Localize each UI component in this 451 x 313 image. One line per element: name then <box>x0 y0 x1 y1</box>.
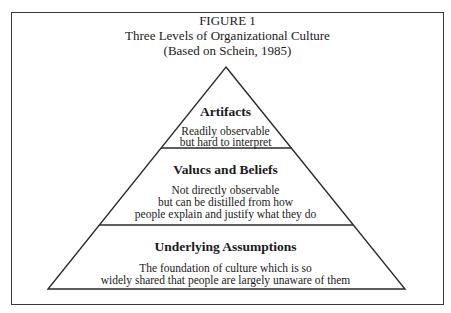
level-desc-artifacts-line2: but hard to interpret <box>0 136 451 148</box>
level-desc-values-line3: people explain and justify what they do <box>0 208 451 220</box>
level-desc-values-line1: Not directly observable <box>0 184 451 196</box>
level-desc-assumptions-line1: The foundation of culture which is so <box>0 262 451 274</box>
level-title-values-beliefs: Valucs and Beliefs <box>0 162 451 177</box>
level-title-artifacts: Artifacts <box>0 104 451 119</box>
level-desc-values-line2: but can be distilled from how <box>0 196 451 208</box>
level-title-underlying-assumptions: Underlying Assumptions <box>0 239 451 254</box>
pyramid-outline <box>48 67 405 289</box>
level-desc-assumptions-line2: widely shared that people are largely un… <box>0 274 451 286</box>
